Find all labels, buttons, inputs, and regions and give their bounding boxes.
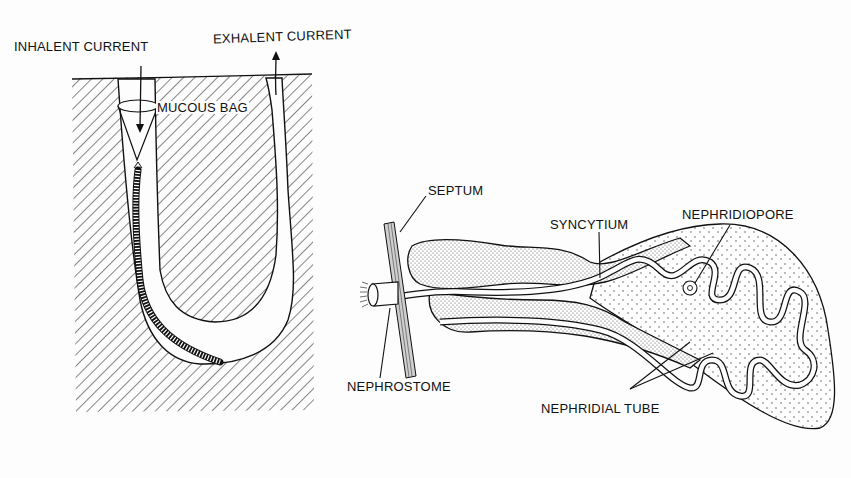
nephridium-panel [360, 222, 835, 429]
label-nephridial-tube: NEPHRIDIAL TUBE [541, 402, 660, 415]
leader-septum [400, 196, 426, 232]
label-nephridiopore: NEPHRIDIOPORE [682, 208, 794, 221]
label-nephrostome: NEPHROSTOME [347, 380, 451, 393]
label-septum: SEPTUM [428, 184, 483, 197]
diagram-artwork [0, 0, 851, 478]
mucous-bag-rim [118, 100, 158, 112]
nephridiopore-ring [683, 281, 697, 295]
diagram-canvas: INHALENT CURRENT EXHALENT CURRENT MUCOUS… [0, 0, 851, 478]
label-syncytium: SYNCYTIUM [550, 218, 628, 231]
label-mucous-bag: MUCOUS BAG [156, 101, 249, 114]
label-inhalent-current: INHALENT CURRENT [14, 40, 148, 53]
leader-nephrostome [380, 308, 390, 378]
